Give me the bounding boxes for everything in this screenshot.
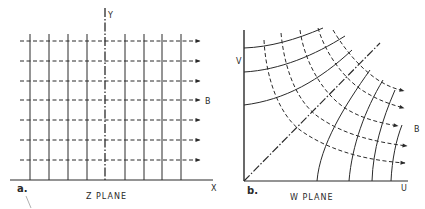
u-axis-label: U bbox=[401, 184, 407, 193]
panel-b-tag: b. bbox=[247, 185, 258, 196]
field-label-a: B bbox=[205, 97, 211, 106]
field-lines-arrows bbox=[20, 41, 200, 160]
y-axis-label-a: Y bbox=[107, 11, 113, 20]
x-axis-label-a: X bbox=[211, 184, 217, 193]
panel-a-tag: a. bbox=[17, 183, 28, 194]
v-axis-label: V bbox=[236, 57, 242, 66]
panel-a-z-plane bbox=[10, 8, 213, 208]
panel-b-w-plane bbox=[244, 28, 408, 181]
panel-b-caption: W PLANE bbox=[290, 193, 333, 202]
conformal-mapping-figure: Y B X a. Z PLANE V B bbox=[0, 0, 425, 209]
scan-artifact bbox=[26, 196, 31, 208]
equipotential-curves-upper bbox=[244, 28, 352, 105]
panel-a-caption: Z PLANE bbox=[86, 192, 127, 201]
field-label-b: B bbox=[414, 125, 420, 134]
field-line-arcs bbox=[264, 28, 407, 163]
